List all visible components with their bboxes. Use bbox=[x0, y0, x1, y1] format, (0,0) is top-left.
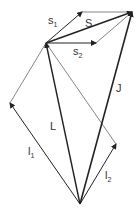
label-l1: l1 bbox=[28, 145, 34, 159]
label-J: J bbox=[116, 82, 122, 94]
label-s1: s1 bbox=[48, 14, 58, 28]
vector-diagram: s1 S s2 J L l1 l2 bbox=[0, 0, 139, 214]
label-S: S bbox=[85, 17, 92, 29]
construction-line-left bbox=[10, 43, 46, 103]
label-L: L bbox=[50, 120, 56, 132]
construction-line-right bbox=[96, 12, 132, 43]
vector-l2 bbox=[80, 144, 116, 204]
label-s2: s2 bbox=[73, 45, 83, 59]
label-l2: l2 bbox=[105, 169, 111, 183]
